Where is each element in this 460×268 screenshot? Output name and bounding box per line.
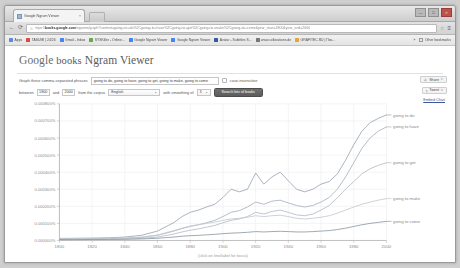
x-axis-tick-label: 2000	[382, 244, 392, 249]
bookmarks-bar: Apps TASUMI | 24/26 Gmail - Inbox SYSKil…	[5, 35, 455, 46]
ngram-chart[interactable]: 0.000800%0.000700%0.000600%0.000500%0.00…	[13, 98, 449, 260]
lock-icon: ⚿	[30, 26, 33, 31]
x-axis-tick-label: 1820	[87, 244, 97, 249]
y-axis-tick-label: 0.000500%	[34, 153, 55, 158]
browser-tab[interactable]: Google Ngram Viewer ×	[13, 9, 85, 22]
smoothing-select[interactable]: 3▾	[197, 89, 211, 97]
bookmark-icon	[214, 38, 218, 42]
share-icon: ⎆	[424, 78, 427, 82]
reload-icon[interactable]: ⟳	[18, 25, 23, 31]
tab-strip: Google Ngram Viewer × — □ ×	[5, 6, 455, 22]
close-icon[interactable]: ×	[79, 14, 81, 18]
chevron-down-icon: ▾	[155, 91, 157, 94]
new-tab-button[interactable]	[89, 12, 105, 22]
bookmark-item[interactable]: TASUMI | 24/26	[26, 38, 55, 42]
y-axis-tick-label: 0.000000%	[34, 238, 55, 243]
x-axis-label: (click on line/label for focus)	[198, 253, 248, 258]
bookmark-item[interactable]: Google Ngram Viewer	[129, 38, 168, 42]
bookmark-icon	[9, 38, 13, 42]
bookmark-label: TASUMI | 24/26	[32, 38, 56, 42]
bookmark-label: www.collorations.de	[261, 38, 291, 42]
corpus-select-value: English	[111, 90, 123, 94]
x-axis-tick-label: 1840	[120, 244, 130, 249]
y-axis-tick-label: 0.000300%	[34, 187, 55, 192]
smoothing-label: with smoothing of	[163, 90, 193, 95]
chart-svg[interactable]: 0.000800%0.000700%0.000600%0.000500%0.00…	[13, 98, 449, 260]
phrase-row: Graph these comma-separated phrases goin…	[19, 77, 377, 85]
bookmark-item[interactable]: Gmail - Inbox	[60, 38, 86, 42]
y-axis-tick-label: 0.000600%	[34, 136, 55, 141]
y-axis-tick-label: 0.000700%	[34, 119, 55, 124]
y-axis-tick-label: 0.000200%	[34, 204, 55, 209]
bookmark-item[interactable]: SYSKiller - Online...	[89, 38, 124, 42]
corpus-label: from the corpus	[78, 90, 105, 95]
smoothing-select-value: 3	[200, 90, 202, 94]
year-start-input[interactable]: 1800	[37, 89, 50, 97]
bookmark-item[interactable]: Apps	[9, 38, 22, 42]
bookmark-icon	[171, 38, 175, 42]
case-insensitive-label: case-insensitive	[230, 78, 258, 83]
x-axis-tick-label: 1880	[185, 244, 195, 249]
bookmark-icon	[89, 38, 93, 42]
bookmark-star-icon[interactable]: ☆	[440, 25, 444, 31]
browser-menu-icon[interactable]: ≡	[447, 25, 451, 31]
page-title: Google books Ngram Viewer	[19, 54, 154, 66]
logo-google: Google	[19, 54, 53, 66]
bookmarks-overflow-button[interactable]: »	[414, 38, 416, 42]
bookmark-label: Gmail - Inbox	[65, 38, 85, 42]
bookmark-icon	[26, 38, 30, 42]
phrase-label: Graph these comma-separated phrases	[19, 78, 88, 83]
minimize-button[interactable]: —	[415, 8, 426, 17]
maximize-button[interactable]: □	[428, 8, 439, 17]
x-axis-tick-label: 1900	[218, 244, 228, 249]
phrase-input[interactable]: going to do, going to have, going to get…	[91, 77, 219, 85]
bookmark-item[interactable]: Google Ngram Viewer	[171, 38, 210, 42]
other-bookmarks-item[interactable]: Other bookmarks	[419, 38, 451, 42]
range-row: between 1800 and 2000 from the corpus En…	[19, 88, 377, 97]
series-label[interactable]: going to come	[393, 219, 421, 224]
bookmark-item[interactable]: Avatar - Subtitles S...	[214, 38, 251, 42]
bookmark-label: Google Ngram Viewer	[177, 38, 210, 42]
bookmark-icon	[60, 38, 64, 42]
window-controls: — □ ×	[415, 8, 452, 17]
series-label[interactable]: going to get	[393, 160, 416, 165]
tweet-label: Tweet	[429, 88, 439, 92]
series-label[interactable]: going to do	[393, 113, 415, 118]
other-bookmarks-label: Other bookmarks	[425, 38, 451, 42]
corpus-select[interactable]: English▾	[108, 89, 160, 97]
series-label[interactable]: going to make	[393, 196, 421, 201]
folder-icon	[419, 38, 423, 42]
search-button[interactable]: Search lots of books	[214, 88, 263, 97]
bookmark-item[interactable]: www.collorations.de	[256, 38, 291, 42]
bookmark-icon	[256, 38, 260, 42]
x-axis-tick-label: 1980	[349, 244, 359, 249]
case-insensitive-checkbox[interactable]	[222, 78, 227, 83]
twitter-icon: 𝄮	[426, 89, 427, 93]
back-icon[interactable]: ←	[9, 25, 15, 31]
tweet-button[interactable]: 𝄮Tweet▾	[422, 87, 447, 94]
logo-books: books	[53, 55, 81, 66]
chevron-down-icon: ▾	[206, 91, 208, 94]
x-axis-tick-label: 1800	[55, 244, 65, 249]
navigation-bar: ← ⟳ ⚿ https://books.google.com/ngrams/gr…	[5, 22, 455, 35]
logo-ngram-viewer: Ngram Viewer	[82, 54, 154, 66]
chevron-down-icon: ▾	[441, 89, 443, 93]
between-label: between	[19, 90, 34, 95]
y-axis-tick-label: 0.000100%	[34, 221, 55, 226]
y-axis-tick-label: 0.000400%	[34, 170, 55, 175]
bookmark-item[interactable]: GRAFITEC.RU | Поч...	[295, 38, 335, 42]
series-label[interactable]: going to have	[393, 125, 420, 130]
bookmark-icon	[295, 38, 299, 42]
year-end-input[interactable]: 2000	[62, 89, 75, 97]
bookmark-label: Google Ngram Viewer	[134, 38, 167, 42]
window-close-button[interactable]: ×	[441, 8, 452, 17]
share-button[interactable]: ⎆Share▾	[420, 76, 447, 83]
address-bar[interactable]: ⚿ https://books.google.com/ngrams/graph?…	[26, 24, 438, 33]
and-label: and	[53, 90, 60, 95]
browser-window: Google Ngram Viewer × — □ × ← ⟳ ⚿ https:…	[4, 5, 456, 263]
x-axis-tick-label: 1860	[153, 244, 163, 249]
y-axis-tick-label: 0.000800%	[34, 101, 55, 106]
x-axis-tick-label: 1920	[251, 244, 261, 249]
divider	[17, 73, 443, 74]
bookmark-label: SYSKiller - Online...	[95, 38, 125, 42]
